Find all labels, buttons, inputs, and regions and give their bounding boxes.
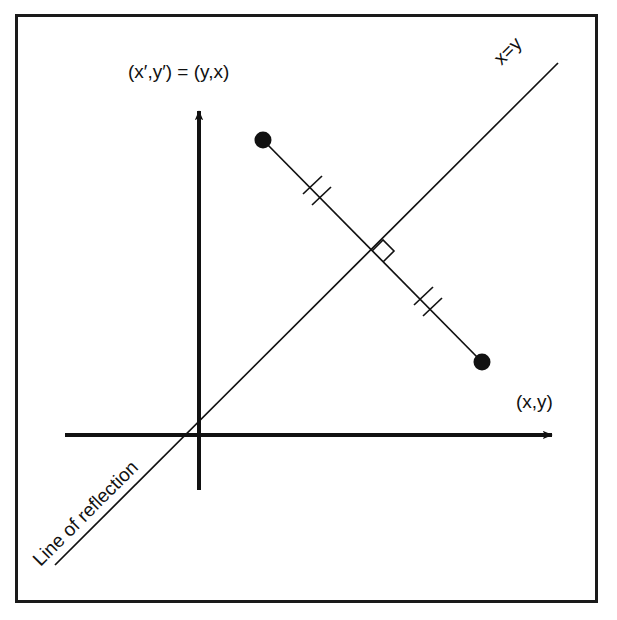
geometry-canvas xyxy=(0,0,617,620)
right-angle-marker xyxy=(372,240,394,262)
line-of-reflection xyxy=(55,63,558,565)
y-axis-label: (x′,y′) = (y,x) xyxy=(128,62,229,81)
tick-pair-lower xyxy=(414,287,442,316)
x-axis-label: (x,y) xyxy=(516,392,553,411)
diagram-root: (x′,y′) = (y,x) (x,y) x=y Line of reflec… xyxy=(0,0,617,620)
preimage-point xyxy=(255,132,272,149)
image-point xyxy=(474,354,491,371)
tick-pair-upper xyxy=(303,176,331,205)
